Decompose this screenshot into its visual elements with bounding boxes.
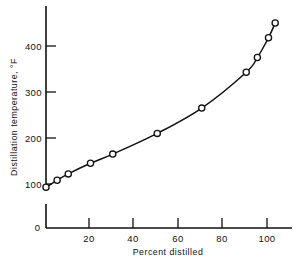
chart-canvas: 400 300 200 100 0 20 40 60 80 100 Percen…: [0, 0, 301, 260]
x-ticklabel-40: 40: [127, 233, 138, 244]
distillation-curve-figure: 400 300 200 100 0 20 40 60 80 100 Percen…: [0, 0, 301, 260]
data-point-marker: [254, 54, 260, 60]
y-ticklabel-300: 300: [25, 87, 42, 98]
x-ticklabel-60: 60: [172, 233, 183, 244]
y-ticklabel-200: 200: [25, 133, 42, 144]
data-point-marker: [87, 160, 93, 166]
x-axis-label: Percent distilled: [133, 247, 204, 257]
data-point-marker: [272, 20, 278, 26]
y-ticklabel-400: 400: [25, 41, 42, 52]
data-point-marker: [65, 171, 71, 177]
data-point-marker: [265, 35, 271, 41]
chart-background: [0, 0, 301, 260]
x-ticklabel-100: 100: [258, 233, 275, 244]
data-point-marker: [199, 105, 205, 111]
data-point-marker: [43, 184, 49, 190]
y-origin-label: 0: [35, 222, 40, 233]
y-axis-label: Distillation temperature, °F: [9, 58, 19, 176]
data-point-marker: [243, 69, 249, 75]
data-point-marker: [110, 151, 116, 157]
x-ticklabel-80: 80: [216, 233, 227, 244]
data-point-marker: [54, 177, 60, 183]
x-ticklabel-20: 20: [83, 233, 94, 244]
y-ticklabel-100: 100: [25, 179, 42, 190]
data-point-marker: [154, 130, 160, 136]
